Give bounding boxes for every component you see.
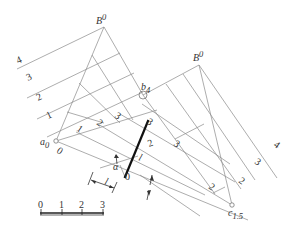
grade-label-3: 3 (113, 110, 123, 122)
right-label-2a: 2 (207, 181, 217, 193)
thick-label-0: 0 (125, 171, 130, 182)
label-alpha: α (113, 161, 119, 172)
label-b0-left: B0 (96, 12, 107, 26)
point-a0-marker (54, 139, 58, 143)
thick-label-2: 2 (146, 137, 154, 149)
contour-label-3: 3 (24, 71, 33, 83)
contour-label-2: 2 (34, 91, 43, 103)
contour-label-4: 4 (14, 54, 23, 66)
dimension-l-left (88, 172, 117, 193)
right-label-4: 4 (272, 139, 282, 151)
scale-tick-2: 2 (79, 199, 84, 210)
label-l-center: l (137, 152, 144, 163)
scale-tick-1: 1 (59, 199, 64, 210)
right-label-2b: 2 (237, 175, 247, 187)
label-c15: c1.5 (228, 207, 243, 221)
right-label-3b: 3 (253, 156, 263, 168)
grade-label-0: 0 (55, 145, 65, 157)
label-b4: b4 (141, 81, 151, 95)
scale-tick-0: 0 (38, 199, 43, 210)
construction-drawing: B0 B0 b4 a0 c1.5 α l l 4 3 2 1 0 1 2 3 0… (0, 0, 290, 233)
slope-scale-line (125, 121, 148, 177)
label-b0-right: B0 (193, 49, 204, 63)
right-label-3a: 3 (172, 138, 182, 150)
scale-tick-3: 3 (100, 199, 105, 210)
diagram-canvas: B0 B0 b4 a0 c1.5 α l l 4 3 2 1 0 1 2 3 0… (0, 0, 290, 233)
contour-label-1: 1 (44, 109, 53, 121)
scale-bar: 0 1 2 3 (38, 199, 105, 215)
label-a0: a0 (40, 136, 50, 150)
thick-label-3: 3 (145, 116, 155, 128)
left-contour-lines (17, 27, 157, 141)
